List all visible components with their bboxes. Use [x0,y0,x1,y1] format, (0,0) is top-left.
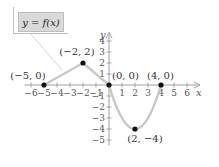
data-point [41,82,46,87]
point-label: (4, 0) [147,70,174,81]
x-tick-label: 5 [171,88,177,98]
x-tick-label: −2 [76,88,89,98]
data-point [80,60,85,65]
x-tick-label: 3 [145,88,151,98]
y-tick-label: −3 [92,113,106,123]
point-label: (2, −4) [127,133,162,144]
y-tick-label: −1 [92,91,105,101]
legend-pointer [30,33,62,70]
data-point [106,82,111,87]
x-tick-label: 1 [119,88,125,98]
x-tick-label: 2 [132,88,138,98]
x-tick-label: −4 [50,88,64,98]
y-tick-label: 2 [99,58,105,68]
x-tick-label: 6 [184,88,190,98]
data-point [158,82,163,87]
point-label: (−2, 2) [59,46,94,57]
point-label: (0, 0) [112,70,139,81]
data-point [132,126,137,131]
legend-label: y = f(x) [18,12,64,32]
point-label: (−5, 0) [10,70,45,81]
axes: xy−6−5−4−3−2−1123456−5−4−3−2−11234 [24,29,202,145]
y-tick-label: −5 [92,135,106,145]
y-tick-label: −2 [92,102,105,112]
x-tick-label: −3 [63,88,77,98]
x-tick-label: −6 [24,88,38,98]
x-tick-label: −5 [37,88,51,98]
y-tick-label: 4 [99,36,105,46]
x-axis-label: x [196,87,202,98]
y-tick-label: −4 [92,124,106,134]
y-tick-label: 3 [99,47,105,57]
